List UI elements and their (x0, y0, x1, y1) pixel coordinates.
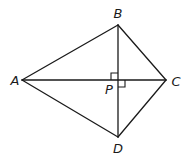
segment-CD (118, 80, 166, 137)
kite-diagram: A B C D P (0, 0, 187, 164)
label-C: C (171, 74, 181, 89)
segment-BC (118, 25, 166, 80)
label-B: B (114, 6, 123, 21)
right-angle-mark-upper-left (111, 73, 118, 80)
segment-AB (22, 25, 118, 80)
right-angle-mark-lower-right (118, 80, 125, 87)
segment-DA (22, 80, 118, 137)
segments (22, 25, 166, 137)
point-labels: A B C D P (10, 6, 182, 156)
label-D: D (113, 141, 123, 156)
label-P: P (105, 82, 113, 97)
label-A: A (10, 73, 20, 88)
